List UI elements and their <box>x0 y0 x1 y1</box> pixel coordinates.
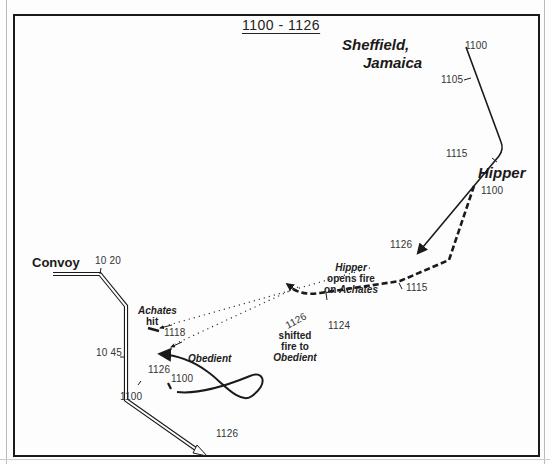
annotation-hipper-name: Hipper <box>335 262 367 273</box>
annotation-fire-to: fire to <box>281 341 309 352</box>
annotation-opens-fire: opens fire <box>327 273 375 284</box>
achates-label: Achates <box>138 306 177 316</box>
sheffield-label: Sheffield, <box>342 37 409 52</box>
convoy-label: Convoy <box>32 256 80 269</box>
jamaica-label: Jamaica <box>363 55 422 70</box>
hipper-label: Hipper <box>478 165 526 180</box>
convoy-time-1126: 1126 <box>216 429 238 439</box>
annotation-shifted: shifted <box>279 330 312 341</box>
hipper-time-1124: 1124 <box>328 321 350 331</box>
convoy-time-1100: 1100 <box>120 392 142 402</box>
sheffield-time-1126: 1126 <box>390 240 412 250</box>
obedient-time-1126: 1126 <box>148 365 170 375</box>
tick-hipper-1115 <box>399 283 402 289</box>
annotation-obedient-name: Obedient <box>273 352 316 363</box>
fire-arrow-obedient <box>171 342 182 347</box>
map-title: 1100 - 1126 <box>242 18 320 32</box>
tick-convoy-1100 <box>138 381 141 385</box>
convoy-track-inner <box>53 274 200 452</box>
sheffield-time-1105: 1105 <box>441 75 463 85</box>
achates-time-1118: 1118 <box>164 328 186 338</box>
sheffield-time-1115: 1115 <box>446 149 468 159</box>
annotation-hipper-opens-fire: Hipper opens fire on Achates <box>316 262 386 295</box>
convoy-time-1020: 10 20 <box>95 256 121 266</box>
track-chart <box>0 0 550 464</box>
convoy-time-1045: 10 45 <box>96 348 122 358</box>
achates-status: hit <box>146 317 158 327</box>
tick-1105 <box>464 78 471 80</box>
hipper-arrowhead <box>287 284 297 291</box>
annotation-on: on <box>324 284 336 295</box>
annotation-shifted-fire: shifted fire to Obedient <box>260 330 330 363</box>
hipper-time-1115: 1115 <box>406 283 428 293</box>
sheffield-time-1100: 1100 <box>465 41 487 51</box>
obedient-time-1100: 1100 <box>171 374 193 384</box>
achates-marker <box>148 328 159 331</box>
annotation-achates-name: Achates <box>339 284 378 295</box>
hipper-time-1100: 1100 <box>481 186 503 196</box>
obedient-label: Obedient <box>188 354 231 364</box>
